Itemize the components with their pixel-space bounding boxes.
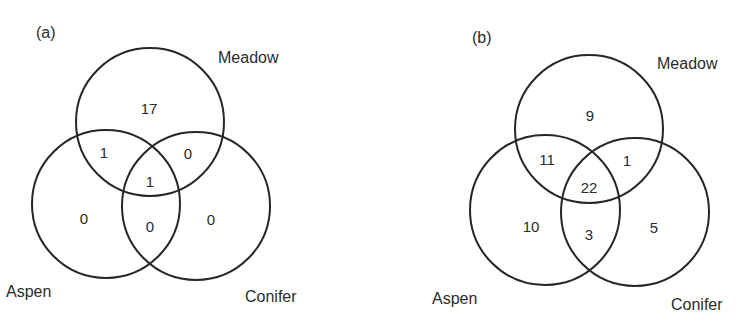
panel-b-all-three-value: 22 bbox=[581, 180, 598, 195]
panel-b-meadow-label: Meadow bbox=[657, 56, 717, 72]
panel-a-meadow-label: Meadow bbox=[218, 50, 278, 66]
venn-circles bbox=[0, 0, 751, 323]
panel-b-tag: (b) bbox=[472, 30, 492, 46]
panel-a-meadow-only-value: 17 bbox=[141, 101, 158, 116]
panel-b-conifer-only-value: 5 bbox=[650, 220, 658, 235]
panel-b-meadow-conifer-value: 1 bbox=[623, 153, 631, 168]
panel-a-meadow-conifer-value: 0 bbox=[184, 146, 192, 161]
panel-b-aspen-only-value: 10 bbox=[523, 219, 540, 234]
panel-a-conifer-label: Conifer bbox=[245, 289, 297, 305]
venn-figure: (a) Meadow Aspen Conifer 17 1 0 1 0 0 0 … bbox=[0, 0, 751, 323]
panel-a-aspen-conifer-value: 0 bbox=[146, 219, 154, 234]
panel-a-aspen-label: Aspen bbox=[6, 284, 51, 300]
panel-b-meadow-only-value: 9 bbox=[586, 108, 594, 123]
panel-a-all-three-value: 1 bbox=[146, 174, 154, 189]
panel-b-aspen-label: Aspen bbox=[432, 291, 477, 307]
panel-a-conifer-circle bbox=[122, 132, 270, 280]
panel-a-tag: (a) bbox=[36, 25, 56, 41]
panel-a-meadow-aspen-value: 1 bbox=[100, 145, 108, 160]
panel-b-conifer-circle bbox=[561, 138, 709, 286]
panel-a-aspen-only-value: 0 bbox=[80, 211, 88, 226]
panel-b-conifer-label: Conifer bbox=[671, 297, 723, 313]
panel-b-aspen-conifer-value: 3 bbox=[585, 227, 593, 242]
panel-b-meadow-aspen-value: 11 bbox=[539, 152, 555, 167]
panel-a-conifer-only-value: 0 bbox=[207, 212, 215, 227]
